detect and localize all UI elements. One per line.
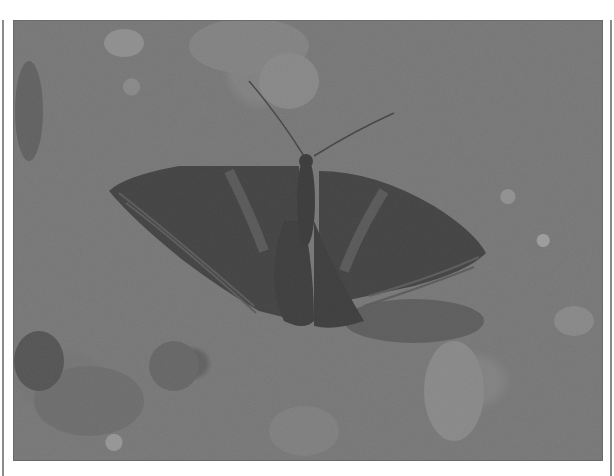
right-frame-line — [610, 20, 612, 476]
grain-texture — [14, 21, 603, 461]
moth-photo — [13, 20, 603, 461]
left-frame-line — [2, 20, 4, 476]
moth-scene — [14, 21, 603, 461]
